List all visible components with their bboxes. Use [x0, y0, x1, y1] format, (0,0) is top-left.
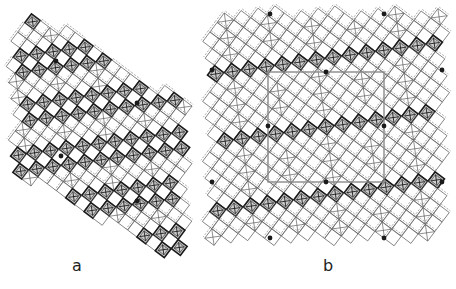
dot-marker	[440, 180, 445, 185]
dot-marker	[54, 59, 59, 64]
dot-marker	[59, 154, 64, 159]
dot-marker	[268, 12, 273, 17]
panel-a	[0, 0, 200, 289]
dot-marker	[210, 180, 215, 185]
dot-marker	[382, 236, 387, 241]
dot-marker	[135, 101, 140, 106]
dot-marker	[266, 124, 271, 129]
dot-marker	[440, 68, 445, 73]
panel-label-b: b	[323, 258, 333, 274]
panel-label-a: a	[72, 258, 82, 274]
dot-marker	[210, 68, 215, 73]
tiling-pattern-b	[200, 0, 456, 289]
tile-layer	[5, 14, 194, 258]
dot-marker	[324, 70, 329, 75]
dot-marker	[268, 236, 273, 241]
dot-marker	[382, 124, 387, 129]
dot-marker	[135, 199, 140, 204]
dot-marker	[382, 12, 387, 17]
tile-layer	[201, 3, 451, 246]
panel-b	[200, 0, 456, 289]
dot-marker	[324, 180, 329, 185]
tiling-pattern-a	[0, 0, 200, 289]
